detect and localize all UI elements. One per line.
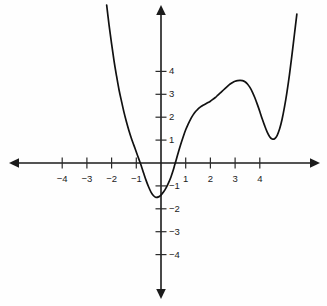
y-tick-label: 3 xyxy=(169,88,174,99)
x-tick-label: 2 xyxy=(208,173,213,184)
chart-canvas: −4−3−2−11234 4321−1−2−3−4 xyxy=(0,0,327,306)
y-tick-label: 2 xyxy=(169,111,174,122)
x-tick-label: −1 xyxy=(131,173,142,184)
function-curve xyxy=(107,5,297,197)
x-axis-group xyxy=(9,158,320,168)
x-axis-left-arrow-icon xyxy=(9,158,19,168)
x-axis-right-arrow-icon xyxy=(310,158,320,168)
y-tick-label: −3 xyxy=(169,226,180,237)
y-tick-label: −2 xyxy=(169,203,180,214)
x-tick-label: 3 xyxy=(232,173,237,184)
x-tick-label: −2 xyxy=(106,173,117,184)
y-axis-bottom-arrow-icon xyxy=(156,289,166,299)
y-axis-top-arrow-icon xyxy=(156,5,166,15)
x-tick-label: −3 xyxy=(81,173,92,184)
y-tick-label: −1 xyxy=(169,180,180,191)
x-axis-tick-labels: −4−3−2−11234 xyxy=(57,173,263,184)
x-tick-label: 1 xyxy=(183,173,188,184)
cartesian-graph: −4−3−2−11234 4321−1−2−3−4 xyxy=(0,0,327,306)
y-tick-label: 4 xyxy=(169,65,174,76)
y-tick-label: −4 xyxy=(169,249,180,260)
x-tick-label: −4 xyxy=(57,173,68,184)
x-tick-label: 4 xyxy=(257,173,262,184)
y-tick-label: 1 xyxy=(169,134,174,145)
